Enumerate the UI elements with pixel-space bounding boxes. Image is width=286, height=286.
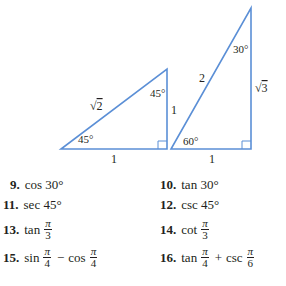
fraction: π4 (90, 246, 98, 269)
fraction: π3 (44, 218, 52, 241)
fraction: π3 (201, 218, 209, 241)
svg-text:√2: √2 (90, 99, 103, 113)
angle-label-bottom: 45° (78, 133, 93, 145)
exercise-10: 10. tan 30° (160, 178, 219, 192)
angle-label-top: 30° (233, 43, 248, 55)
triangle-figures: √2 45° 1 45° 1 30° 2 √3 60° 1 (0, 0, 286, 170)
leg-label: 1 (171, 103, 177, 117)
angle-label-bottom: 60° (183, 135, 198, 147)
exercise-16: 16. tan π4 + csc π6 (160, 246, 256, 269)
exercise-11: 11. sec 45° (3, 198, 62, 212)
fraction: π4 (201, 246, 209, 269)
svg-text:√3: √3 (255, 81, 268, 95)
triangle-30-60-90: 30° 2 √3 60° 1 (171, 8, 268, 166)
exercise-13: 13. tan π3 (3, 218, 54, 241)
fraction: π4 (43, 246, 51, 269)
angle-label-top: 45° (150, 87, 165, 99)
hypotenuse-label: 2 (199, 71, 205, 85)
exercise-9: 9. cos 30° (10, 178, 64, 192)
base-label: 1 (209, 152, 215, 166)
fraction: π6 (247, 246, 255, 269)
exercise-12: 12. csc 45° (160, 198, 219, 212)
exercise-15: 15. sin π4 − cos π4 (3, 246, 99, 269)
exercise-14: 14. cot π3 (160, 218, 211, 241)
base-label: 1 (111, 152, 117, 166)
triangle-45-45-90: √2 45° 1 45° 1 (61, 69, 177, 166)
